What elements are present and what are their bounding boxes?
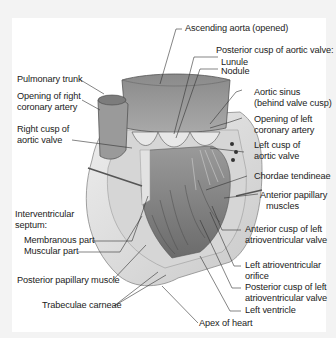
label-ascending-aorta: Ascending aorta (opened)	[185, 23, 288, 34]
label-left-cusp-aortic-valve: Left cusp of aortic valve	[254, 140, 300, 162]
label-membranous-part: Membranous part	[24, 235, 95, 246]
label-opening-right-coronary: Opening of right coronary artery	[17, 91, 81, 113]
label-apex-of-heart: Apex of heart	[199, 318, 252, 329]
label-trabeculae-carneae: Trabeculae carneae	[42, 300, 122, 311]
ascending-aorta	[122, 74, 230, 133]
label-chordae-tendineae: Chordae tendineae	[254, 171, 330, 182]
label-pulmonary-trunk: Pulmonary trunk	[17, 74, 82, 85]
label-anterior-papillary-muscles: Anterior papillary muscles	[260, 190, 327, 212]
label-nodule: Nodule	[221, 66, 250, 77]
label-posterior-cusp-left-av-valve: Posterior cusp of left atrioventricular …	[245, 282, 327, 304]
label-interventricular-septum: Interventricular septum:	[15, 209, 74, 231]
label-posterior-cusp-heading: Posterior cusp of aortic valve:	[216, 45, 333, 56]
label-aortic-sinus: Aortic sinus (behind valve cusp)	[254, 87, 332, 109]
label-anterior-cusp-left-av-valve: Anterior cusp of left atrioventricular v…	[245, 224, 327, 246]
label-right-cusp-aortic-valve: Right cusp of aortic valve	[17, 124, 69, 146]
label-left-av-orifice: Left atrioventricular orifice	[245, 260, 321, 282]
label-muscular-part: Muscular part	[24, 246, 78, 257]
pulmonary-trunk	[98, 97, 128, 160]
label-posterior-papillary-muscle: Posterior papillary muscle	[17, 275, 120, 286]
label-left-ventricle: Left ventricle	[245, 305, 296, 316]
label-opening-left-coronary: Opening of left coronary artery	[254, 114, 314, 136]
